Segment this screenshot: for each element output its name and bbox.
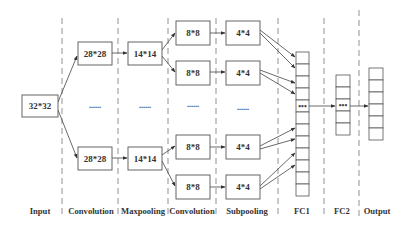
cnn-diagram: 32*32 28*28 ...... 28*28 14*14 ...... 14… (0, 0, 412, 229)
fc2-layer: ••• (336, 75, 350, 135)
fc2-ellipsis: ••• (339, 101, 348, 110)
conv1-ellipsis: ...... (89, 101, 101, 110)
conv2-map-size: 8*8 (186, 182, 200, 192)
label-convolution-1: Convolution (68, 206, 114, 216)
conv2-map-size: 8*8 (186, 68, 200, 78)
label-subpooling: Subpooling (226, 206, 268, 216)
label-input: Input (30, 206, 51, 216)
conv1-map-size: 28*28 (84, 49, 107, 59)
pool1-ellipsis: ...... (139, 101, 151, 110)
layer-labels: Input Convolution Maxpooling Convolution… (30, 206, 391, 216)
label-maxpooling: Maxpooling (121, 206, 166, 216)
input-map-size: 32*32 (29, 101, 52, 111)
conv2-ellipsis: ...... (187, 100, 199, 109)
label-fc1: FC1 (294, 206, 310, 216)
input-layer: 32*32 (22, 95, 58, 117)
label-convolution-2: Convolution (169, 206, 215, 216)
pool1-map-size: 14*14 (134, 154, 157, 164)
pool2-map-size: 4*4 (236, 68, 250, 78)
fc1-layer: ••• (296, 52, 309, 196)
fc1-ellipsis: ••• (298, 102, 307, 111)
pool2-map-size: 4*4 (236, 28, 250, 38)
pool1-map-size: 14*14 (134, 49, 157, 59)
label-output: Output (364, 206, 391, 216)
conv2-map-size: 8*8 (186, 142, 200, 152)
pool1-layer: 14*14 ...... 14*14 (128, 42, 162, 170)
output-layer (369, 68, 383, 140)
pool2-ellipsis: ...... (237, 103, 249, 112)
conv1-layer: 28*28 ...... 28*28 (78, 42, 112, 170)
conv1-map-size: 28*28 (84, 154, 107, 164)
conv2-map-size: 8*8 (186, 28, 200, 38)
conv2-layer: 8*8 8*8 ...... 8*8 8*8 (176, 21, 210, 199)
pool2-layer: 4*4 4*4 ...... 4*4 4*4 (226, 21, 260, 199)
pool2-map-size: 4*4 (236, 142, 250, 152)
pool2-map-size: 4*4 (236, 182, 250, 192)
label-fc2: FC2 (334, 206, 350, 216)
